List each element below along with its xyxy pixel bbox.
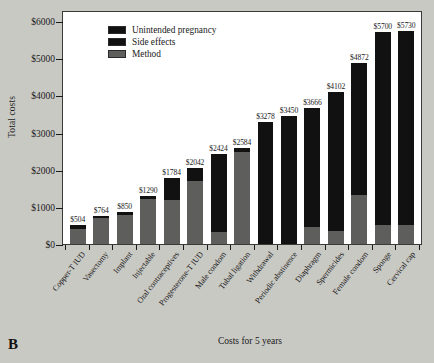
y-tick-mark [56, 96, 63, 97]
y-tick-mark [56, 171, 63, 172]
legend-label-side_effects: Side effects [132, 37, 175, 47]
bar-stack[interactable]: $3278 [258, 122, 274, 244]
y-tick-mark [56, 245, 63, 246]
bar-stack[interactable]: $1290 [140, 196, 156, 244]
bar-value-label: $3666 [303, 98, 322, 107]
bar-value-label: $2424 [209, 144, 228, 153]
x-category-label: Implant [111, 250, 134, 275]
bar-value-label: $3450 [280, 106, 299, 115]
y-axis-tick-labels: $0$1000$2000$3000$4000$5000$6000 [13, 0, 55, 363]
y-tick-label: $0 [13, 240, 55, 250]
bar-segment-side-effects [281, 116, 297, 244]
bar-stack[interactable]: $504 [70, 225, 86, 244]
bar-column[interactable]: $4102 [324, 12, 347, 244]
bar-value-label: $1784 [162, 168, 181, 177]
bar-segment-method [375, 225, 391, 244]
bar-stack[interactable]: $5730 [398, 31, 414, 244]
bar-stack[interactable]: $4872 [351, 63, 367, 244]
bar-column[interactable]: $504 [66, 12, 89, 244]
bar-value-label: $3278 [256, 112, 275, 121]
bar-stack[interactable]: $3666 [304, 108, 320, 244]
y-tick-label: $1000 [13, 203, 55, 213]
x-axis-title: Costs for 5 years [170, 336, 330, 346]
bar-stack[interactable]: $5700 [375, 32, 391, 244]
bar-segment-method [93, 218, 109, 244]
bar-segment-side-effects [187, 168, 203, 181]
panel-label: B [8, 336, 18, 353]
legend-label-unintended_pregnancy: Unintended pregnancy [132, 25, 216, 35]
x-category-label: Sponge [371, 250, 393, 275]
bar-value-label: $2042 [186, 158, 205, 167]
bar-stack[interactable]: $764 [93, 216, 109, 244]
bar-stack[interactable]: $2584 [234, 148, 250, 244]
bar-segment-side-effects [398, 31, 414, 225]
legend-item-side_effects: Side effects [108, 37, 216, 47]
legend-swatch-method [108, 50, 126, 59]
y-tick-label: $4000 [13, 91, 55, 101]
bar-column[interactable]: $3278 [254, 12, 277, 244]
bar-value-label: $850 [117, 202, 132, 211]
legend-label-method: Method [132, 49, 161, 59]
bar-segment-side-effects [211, 154, 227, 232]
bar-column[interactable]: $3450 [277, 12, 300, 244]
legend-item-unintended_pregnancy: Unintended pregnancy [108, 25, 216, 35]
bar-segment-method [70, 229, 86, 244]
bar-segment-method [398, 225, 414, 244]
y-tick-mark [56, 22, 63, 23]
bar-column[interactable]: $5700 [371, 12, 394, 244]
bar-segment-method [117, 215, 133, 244]
bar-column[interactable]: $2584 [230, 12, 253, 244]
bar-segment-method [304, 227, 320, 244]
y-tick-label: $6000 [13, 17, 55, 27]
y-tick-mark [56, 208, 63, 209]
figure-panel-b: Total costs $0$1000$2000$3000$4000$5000$… [0, 0, 434, 363]
bar-segment-method [234, 152, 250, 244]
bar-segment-side-effects [328, 92, 344, 231]
bar-segment-side-effects [258, 122, 274, 244]
legend-item-method: Method [108, 49, 216, 59]
bar-value-label: $5730 [397, 21, 416, 30]
x-axis-category-labels: Copper-T IUDVasectomyImplantInjectableOr… [62, 250, 422, 324]
bar-value-label: $2584 [233, 138, 252, 147]
y-tick-label: $5000 [13, 54, 55, 64]
bar-column[interactable]: $5730 [395, 12, 418, 244]
y-tick-label: $2000 [13, 166, 55, 176]
bar-stack[interactable]: $4102 [328, 92, 344, 244]
chart-legend: Unintended pregnancySide effectsMethod [108, 25, 216, 59]
y-tick-label: $3000 [13, 129, 55, 139]
bar-segment-method [140, 199, 156, 244]
bar-value-label: $4102 [327, 82, 346, 91]
bar-stack[interactable]: $1784 [164, 178, 180, 244]
bar-stack[interactable]: $850 [117, 212, 133, 244]
y-tick-mark [56, 59, 63, 60]
bar-value-label: $5700 [374, 22, 393, 31]
bar-segment-side-effects [375, 32, 391, 225]
bar-segment-side-effects [164, 178, 180, 200]
bar-value-label: $504 [70, 215, 85, 224]
bar-segment-side-effects [351, 63, 367, 195]
legend-swatch-side_effects [108, 38, 126, 47]
legend-swatch-unintended_pregnancy [108, 26, 126, 35]
bar-value-label: $764 [94, 206, 109, 215]
bar-value-label: $4872 [350, 53, 369, 62]
bar-segment-method [187, 181, 203, 244]
bar-stack[interactable]: $2042 [187, 168, 203, 244]
bar-column[interactable]: $3666 [301, 12, 324, 244]
bar-segment-method [351, 195, 367, 244]
bar-segment-side-effects [304, 108, 320, 227]
bar-value-label: $1290 [139, 186, 158, 195]
y-tick-mark [56, 134, 63, 135]
x-category-label: Copper-T IUD [50, 250, 86, 293]
bar-segment-method [328, 231, 344, 244]
bar-segment-method [164, 200, 180, 244]
bar-column[interactable]: $4872 [348, 12, 371, 244]
bar-stack[interactable]: $2424 [211, 154, 227, 244]
bar-segment-method [211, 232, 227, 244]
bar-stack[interactable]: $3450 [281, 116, 297, 244]
